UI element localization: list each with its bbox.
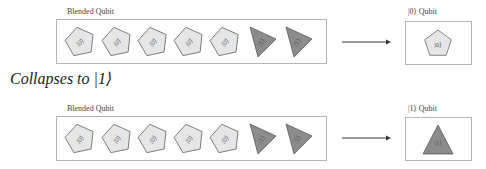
triangle-icon: |1⟩: [286, 124, 312, 154]
pentagon-icon: |0⟩: [100, 121, 134, 153]
result-qubit-label: |1⟩ Qubit: [408, 104, 437, 113]
triangle-icon: |1⟩: [250, 124, 276, 154]
pentagon-icon: |0⟩: [172, 121, 206, 153]
pentagon-icon: |0⟩: [136, 121, 170, 153]
result-qubit-box: [405, 117, 472, 161]
pentagon-icon: |0⟩: [63, 121, 97, 153]
arrow-right-icon: [342, 136, 391, 141]
pentagon-icon: |0⟩: [208, 121, 242, 153]
